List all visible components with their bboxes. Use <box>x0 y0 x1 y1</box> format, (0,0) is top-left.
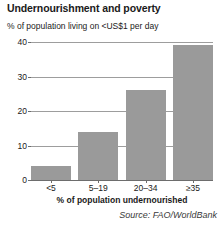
bar-lt5[interactable] <box>31 166 71 180</box>
bar-slot-2 <box>78 42 118 180</box>
chart-title: Undernourishment and poverty <box>7 2 161 15</box>
ytick-label-0: 0 <box>22 176 27 185</box>
xtick-label-20-34: 20–34 <box>126 183 166 193</box>
bar-gte35[interactable] <box>173 45 213 180</box>
bar-20-34[interactable] <box>126 90 166 180</box>
ytick-mark-0 <box>28 180 31 181</box>
plot-area: 40 30 20 10 0 <box>31 42 213 180</box>
x-axis-title: % of population undernourished <box>31 195 213 205</box>
ytick-label-30: 30 <box>18 72 27 81</box>
ytick-label-10: 10 <box>18 141 27 150</box>
bar-5-19[interactable] <box>78 132 118 180</box>
bar-group <box>31 42 213 180</box>
xtick-label-5-19: 5–19 <box>78 183 118 193</box>
bar-slot-3 <box>126 42 166 180</box>
xtick-label-gte35: ≥35 <box>173 183 213 193</box>
ytick-label-20: 20 <box>18 107 27 116</box>
chart-figure: Undernourishment and poverty % of popula… <box>0 0 224 228</box>
axis-baseline-0: 0 <box>31 180 213 181</box>
xtick-label-lt5: <5 <box>31 183 71 193</box>
chart-subtitle-y-axis-label: % of population living on <US$1 per day <box>7 21 158 32</box>
bar-slot-1 <box>31 42 71 180</box>
source-note: Source: FAO/WorldBank <box>119 210 217 221</box>
x-axis-tick-labels: <5 5–19 20–34 ≥35 <box>31 183 213 193</box>
ytick-label-40: 40 <box>18 38 27 47</box>
bar-slot-4 <box>173 42 213 180</box>
